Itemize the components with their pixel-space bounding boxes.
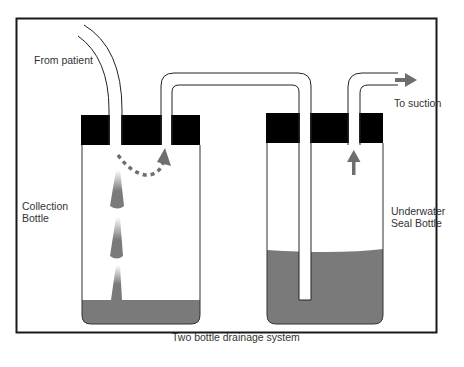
to-suction-arrow (395, 73, 417, 87)
label-collection-bottle-1: Collection (22, 200, 68, 212)
seal-liquid (267, 249, 383, 324)
suction-arrow-up (347, 150, 361, 175)
seal-cap (266, 113, 383, 143)
label-underwater-1: Underwater (391, 205, 445, 217)
collection-bottle-outline (82, 145, 200, 324)
drip-2 (110, 217, 123, 259)
drip-1 (110, 170, 124, 209)
underwater-seal-bottle (266, 113, 383, 324)
label-from-patient: From patient (34, 54, 93, 66)
collection-bottle (81, 115, 200, 324)
label-collection-bottle-2: Bottle (22, 212, 49, 224)
diagram-title: Two bottle drainage system (172, 331, 300, 343)
label-to-suction: To suction (394, 97, 441, 109)
label-underwater-2: Seal Bottle (391, 217, 442, 229)
drip-3 (111, 265, 122, 300)
air-flow-dotted-arrow (118, 155, 163, 175)
collection-cap (81, 115, 200, 145)
air-flow-arrowhead (157, 148, 171, 166)
